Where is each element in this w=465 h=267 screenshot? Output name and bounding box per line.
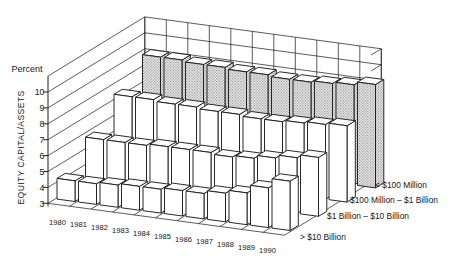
tick-label-5: 5 bbox=[40, 167, 45, 177]
y-axis-title: EQUITY CAPITAL/ASSETS bbox=[16, 90, 26, 204]
right-wall-top-tick bbox=[371, 49, 381, 55]
tick-label-3: 3 bbox=[40, 199, 45, 209]
left-wall-gridline-10 bbox=[48, 33, 145, 92]
year-label-1985: 1985 bbox=[154, 232, 171, 241]
year-label-1988: 1988 bbox=[217, 240, 234, 249]
year-label-1990: 1990 bbox=[259, 246, 276, 255]
bar-side-1990-row0 bbox=[290, 176, 298, 230]
tick-label-8: 8 bbox=[40, 119, 45, 129]
bar-front-1984-row0 bbox=[143, 187, 161, 213]
bar-front-1981-row0 bbox=[79, 181, 97, 204]
bar-front-1980-row0 bbox=[57, 178, 75, 201]
bar-front-1990-row0 bbox=[272, 179, 290, 231]
legend-label-row-2: $1 Billion – $10 Billion bbox=[327, 211, 409, 221]
year-label-1987: 1987 bbox=[196, 237, 213, 246]
year-label-1982: 1982 bbox=[91, 223, 108, 232]
right-wall-tick-10 bbox=[371, 65, 381, 71]
year-label-1986: 1986 bbox=[175, 235, 192, 244]
bar-front-1986-row0 bbox=[186, 191, 204, 219]
year-label-1980: 1980 bbox=[49, 218, 66, 227]
left-wall-top-edge bbox=[48, 17, 145, 76]
bar-side-1990-row3 bbox=[376, 80, 384, 188]
legend-label-row-1: $100 Million – $1 Billion bbox=[350, 195, 438, 205]
tick-label-4: 4 bbox=[40, 183, 45, 193]
bar-front-1987-row0 bbox=[208, 191, 226, 222]
bar-side-1990-row1 bbox=[319, 152, 327, 216]
bar-front-1988-row0 bbox=[229, 191, 247, 225]
year-label-1983: 1983 bbox=[112, 226, 129, 235]
legend-label-row-3: > $10 Billion bbox=[300, 232, 346, 242]
bar-front-1990-row3 bbox=[358, 82, 376, 188]
year-label-1989: 1989 bbox=[238, 243, 255, 252]
bar-front-1983-row0 bbox=[122, 184, 140, 210]
bar-front-1989-row0 bbox=[251, 185, 269, 227]
back-wall-top-edge bbox=[145, 17, 381, 49]
bar-front-1990-row1 bbox=[301, 155, 319, 216]
tick-label-10: 10 bbox=[35, 87, 45, 97]
bar-front-1982-row0 bbox=[100, 183, 118, 208]
equity-capital-assets-figure: Percent EQUITY CAPITAL/ASSETS 3456789101… bbox=[0, 0, 465, 267]
tick-label-7: 7 bbox=[40, 135, 45, 145]
bar-front-1985-row0 bbox=[165, 188, 183, 216]
tick-label-6: 6 bbox=[40, 151, 45, 161]
legend-label-row-0: < $100 Million bbox=[375, 180, 427, 190]
year-label-1981: 1981 bbox=[70, 220, 87, 229]
tick-label-9: 9 bbox=[40, 103, 45, 113]
year-label-1984: 1984 bbox=[133, 229, 150, 238]
equity-capital-assets-3d-bar-chart: Percent EQUITY CAPITAL/ASSETS 3456789101… bbox=[0, 0, 465, 267]
bar-front-1990-row2 bbox=[329, 123, 347, 202]
bar-side-1990-row2 bbox=[347, 121, 355, 202]
percent-unit-label: Percent bbox=[12, 64, 44, 74]
